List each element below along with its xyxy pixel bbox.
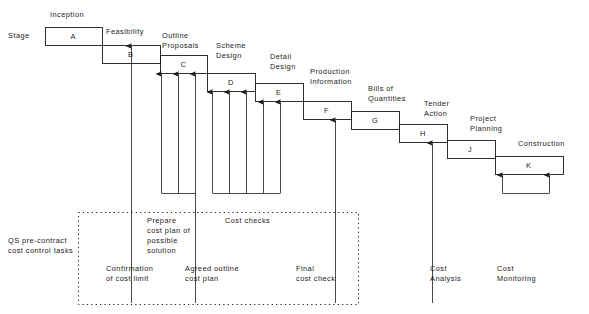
task-label-cost-analysis: CostAnalysis: [430, 264, 461, 284]
stage-name-e: DetailDesign: [270, 52, 296, 72]
task-label-cost-monitoring: CostMonitoring: [497, 264, 536, 284]
stage-letter-j: J: [468, 145, 472, 154]
stage-letter-f: F: [324, 106, 329, 115]
stage-letter-k: K: [526, 161, 531, 170]
stage-name-c: OutlineProposals: [162, 31, 199, 51]
stage-name-g: Bills ofQuantities: [368, 84, 406, 104]
stage-letter-h: H: [420, 129, 425, 138]
qs-task-panel-border: [79, 213, 359, 305]
qs-task-panel-rect: [79, 213, 359, 305]
stage-letter-e: E: [276, 88, 281, 97]
diagram-canvas: Stage InceptionFeasibilityOutlineProposa…: [0, 0, 589, 314]
task-label-confirmation-of-cost-limit: Confirmationof cost limit: [106, 264, 153, 284]
task-label-final-cost-check: Finalcost check: [296, 264, 335, 284]
stage-letter-b: B: [128, 50, 133, 59]
stage-letter-g: G: [372, 116, 378, 125]
stage-name-b: Feasibility: [106, 27, 144, 37]
stage-boxes-group: [46, 28, 564, 175]
task-label-prepare-cost-plan: Preparecost plan ofpossiblesolution: [147, 216, 190, 256]
stage-name-j: ProjectPlanning: [470, 114, 502, 134]
stage-letter-c: C: [181, 60, 186, 69]
task-label-cost-checks: Cost checks: [225, 216, 270, 226]
stage-letter-a: A: [71, 32, 76, 41]
stage-name-a: Inception: [50, 10, 84, 20]
stage-name-f: ProductionInformation: [310, 67, 352, 87]
stage-name-k: Construction: [518, 139, 565, 149]
stage-name-d: SchemeDesign: [216, 41, 246, 61]
task-label-agreed-outline-cost-plan: Agreed outlinecost plan: [185, 264, 239, 284]
stage-letter-d: D: [228, 78, 233, 87]
qs-group-label: QS pre-contractcost control tasks: [8, 236, 73, 256]
stage-name-h: TenderAction: [424, 99, 449, 119]
stage-row-label: Stage: [8, 31, 30, 41]
